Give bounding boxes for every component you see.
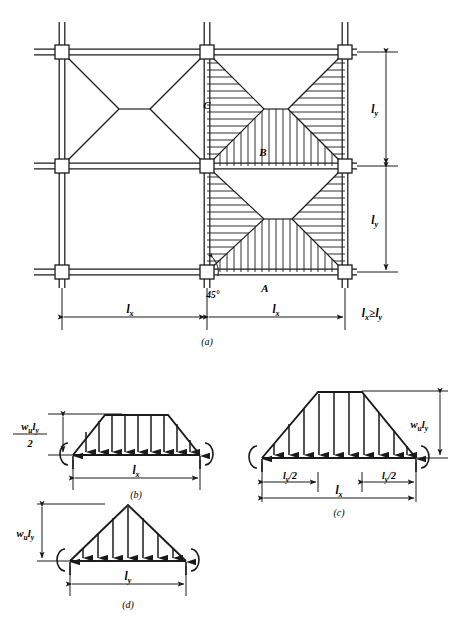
hatch-region-A <box>213 160 339 280</box>
caption-a: (a) <box>201 336 213 348</box>
structural-yield-line-figure: C B A 45° lx lx ly <box>0 0 454 633</box>
dimension-label-lx-right: lx <box>272 303 279 318</box>
dimension-label-ly-bottom: ly <box>371 214 378 229</box>
column-nodes <box>55 45 352 279</box>
hatch-region-B <box>213 45 339 175</box>
column-node <box>338 45 352 59</box>
column-node <box>200 265 214 279</box>
moment-curl-left-b <box>60 443 68 465</box>
caption-d: (d) <box>122 599 134 611</box>
dimension-bottom <box>62 288 345 330</box>
load-shape-c <box>262 392 416 458</box>
load-diagram-c: wuly ly/2 ly/2 lx (c) <box>249 391 448 519</box>
dimension-label-ly-top: ly <box>371 103 378 118</box>
column-node <box>338 265 352 279</box>
angle-label-45: 45° <box>205 290 220 300</box>
caption-b: (b) <box>130 489 142 501</box>
moment-curl-left-d <box>57 549 65 571</box>
region-label-B: B <box>258 146 266 158</box>
span-label-b: lx <box>132 464 139 479</box>
load-arrows-d <box>83 507 173 558</box>
load-intensity-label-b: wuly 2 <box>13 421 47 449</box>
column-node <box>55 45 69 59</box>
half-span-label-right-c: ly/2 <box>382 470 396 484</box>
moment-curl-right-d <box>191 549 199 571</box>
span-label-d: ly <box>125 570 132 585</box>
region-label-C: C <box>203 99 211 111</box>
region-label-A: A <box>260 282 268 294</box>
load-intensity-label-c: wuly <box>411 419 429 433</box>
column-node <box>200 159 214 173</box>
column-node <box>200 45 214 59</box>
load-diagram-d: wuly ly (d) <box>17 504 199 611</box>
column-node <box>55 159 69 173</box>
plan-view-a: C B A 45° lx lx ly <box>34 22 398 348</box>
dimension-right <box>357 52 398 272</box>
dimension-label-lx-left: lx <box>126 303 133 318</box>
height-dimension-c <box>362 391 448 458</box>
svg-text:wuly: wuly <box>21 421 39 435</box>
column-node <box>338 159 352 173</box>
supports-b <box>73 456 200 469</box>
column-node <box>55 265 69 279</box>
inequality-note: lx≥ly <box>362 307 383 322</box>
moment-curl-right-b <box>205 443 213 465</box>
load-diagram-b: wuly 2 lx (b) <box>13 414 213 501</box>
supports-d <box>70 562 186 575</box>
height-dimension-b <box>48 414 122 455</box>
moment-curl-left-c <box>249 446 257 468</box>
height-dimension-d <box>37 504 105 561</box>
fraction-denominator-b: 2 <box>26 438 33 449</box>
half-span-label-left-c: ly/2 <box>283 470 297 484</box>
load-intensity-label-d: wuly <box>17 528 35 542</box>
load-arrows-b <box>86 416 190 452</box>
figure-container: C B A 45° lx lx ly <box>0 0 454 633</box>
load-shape-b <box>73 415 200 455</box>
moment-curl-right-c <box>421 446 429 468</box>
caption-c: (c) <box>333 507 345 519</box>
span-label-c: lx <box>335 484 342 499</box>
